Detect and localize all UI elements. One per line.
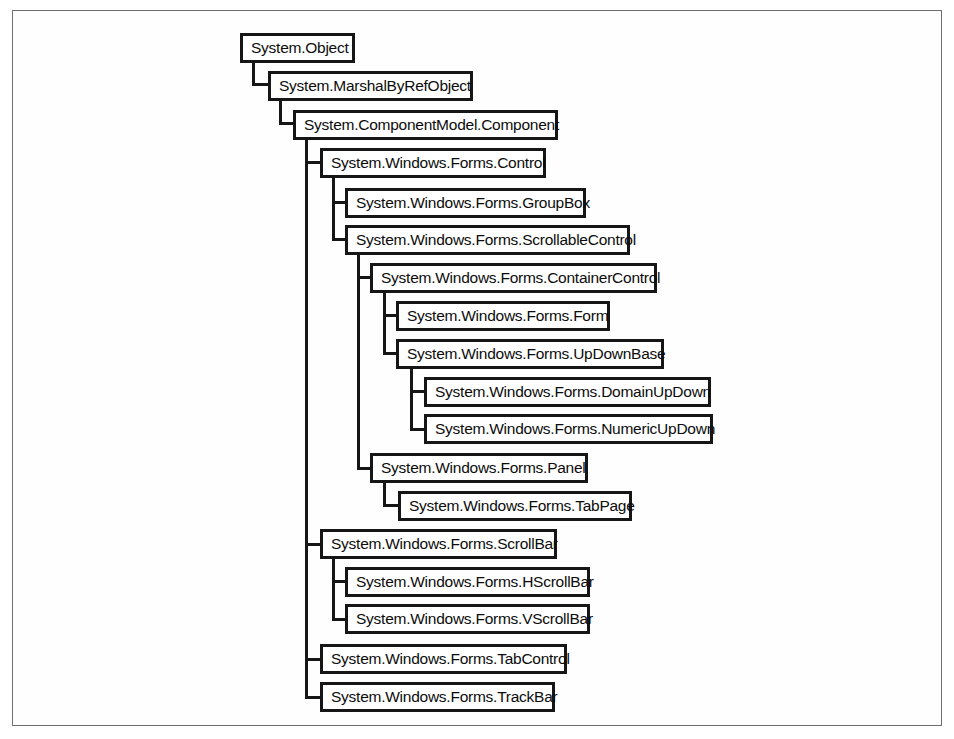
class-node-label: System.Windows.Forms.ScrollBar: [331, 536, 558, 552]
connector-vertical-component-trunk: [305, 140, 308, 697]
connector-vertical-scrollable-trunk: [357, 255, 360, 468]
class-hierarchy-diagram: System.ObjectSystem.MarshalByRefObjectSy…: [0, 0, 954, 739]
class-node-label: System.Windows.Forms.ScrollableControl: [356, 232, 636, 248]
class-node-label: System.Windows.Forms.NumericUpDown: [435, 421, 715, 437]
connector-vertical-container-trunk: [383, 293, 386, 354]
class-node-updownbase[interactable]: System.Windows.Forms.UpDownBase: [396, 339, 664, 369]
class-node-label: System.Windows.Forms.TabControl: [331, 651, 570, 667]
class-node-scrollbar[interactable]: System.Windows.Forms.ScrollBar: [320, 529, 557, 559]
class-node-label: System.Windows.Forms.UpDownBase: [407, 346, 665, 362]
class-node-numericupdown[interactable]: System.Windows.Forms.NumericUpDown: [424, 414, 713, 444]
class-node-label: System.MarshalByRefObject: [279, 78, 471, 94]
class-node-trackbar[interactable]: System.Windows.Forms.TrackBar: [320, 682, 555, 712]
class-node-containercontrol[interactable]: System.Windows.Forms.ContainerControl: [370, 263, 657, 293]
class-node-component[interactable]: System.ComponentModel.Component: [293, 110, 558, 140]
class-node-panel[interactable]: System.Windows.Forms.Panel: [370, 453, 588, 483]
connector-vertical-scrollbar-trunk: [332, 559, 335, 620]
class-node-label: System.Windows.Forms.DomainUpDown: [435, 384, 711, 400]
class-node-label: System.Windows.Forms.ContainerControl: [381, 270, 660, 286]
class-node-hscrollbar[interactable]: System.Windows.Forms.HScrollBar: [345, 567, 590, 597]
class-node-label: System.ComponentModel.Component: [304, 117, 559, 133]
diagram-page: System.ObjectSystem.MarshalByRefObjectSy…: [0, 0, 954, 739]
class-node-label: System.Windows.Forms.VScrollBar: [356, 611, 593, 627]
class-node-label: System.Windows.Forms.Control: [331, 155, 545, 171]
class-node-label: System.Windows.Forms.Form: [407, 308, 608, 324]
class-node-label: System.Object: [251, 40, 349, 56]
class-node-tabpage[interactable]: System.Windows.Forms.TabPage: [398, 491, 632, 521]
class-node-form[interactable]: System.Windows.Forms.Form: [396, 301, 610, 331]
class-node-domainupdown[interactable]: System.Windows.Forms.DomainUpDown: [424, 377, 711, 407]
class-node-scrollablecontrol[interactable]: System.Windows.Forms.ScrollableControl: [345, 225, 630, 255]
class-node-control[interactable]: System.Windows.Forms.Control: [320, 148, 546, 178]
connector-vertical-updownbase-trunk: [410, 369, 413, 430]
class-node-groupbox[interactable]: System.Windows.Forms.GroupBox: [345, 188, 586, 218]
class-node-tabcontrol[interactable]: System.Windows.Forms.TabControl: [320, 644, 567, 674]
class-node-label: System.Windows.Forms.GroupBox: [356, 195, 590, 211]
class-node-label: System.Windows.Forms.TrackBar: [331, 689, 557, 705]
class-node-vscrollbar[interactable]: System.Windows.Forms.VScrollBar: [345, 604, 590, 634]
class-node-marshal[interactable]: System.MarshalByRefObject: [268, 71, 473, 101]
class-node-label: System.Windows.Forms.TabPage: [409, 498, 635, 514]
class-node-object[interactable]: System.Object: [240, 33, 355, 63]
class-node-label: System.Windows.Forms.HScrollBar: [356, 574, 594, 590]
connector-vertical-control-trunk: [332, 178, 335, 240]
class-node-label: System.Windows.Forms.Panel: [381, 460, 586, 476]
connector-vertical-marshal-component: [279, 101, 282, 124]
